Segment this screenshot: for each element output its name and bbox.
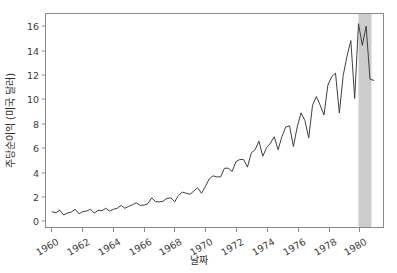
y-tick-label-10: 10 — [27, 94, 39, 105]
x-tick-mark-1978 — [329, 228, 330, 232]
x-tick-mark-1974 — [267, 228, 268, 232]
recession-band — [358, 14, 371, 227]
x-tick-mark-1962 — [82, 228, 83, 232]
data-line-group — [52, 24, 374, 215]
x-tick-mark-1964 — [113, 228, 114, 232]
y-tick-label-16: 16 — [27, 21, 39, 32]
y-tick-label-8: 8 — [33, 118, 39, 129]
y-axis-label: 주당순이익 (미국 달러) — [3, 73, 18, 168]
x-tick-mark-1976 — [298, 228, 299, 232]
x-tick-mark-1968 — [174, 228, 175, 232]
y-tick-label-4: 4 — [33, 167, 39, 178]
plot-area — [45, 13, 384, 228]
y-tick-label-2: 2 — [33, 191, 39, 202]
data-series-line-0 — [52, 24, 374, 215]
x-tick-mark-1966 — [144, 228, 145, 232]
chart-figure: 주당순이익 (미국 달러) 0246810121416 196019621964… — [0, 0, 397, 273]
plot-svg — [46, 14, 383, 227]
y-tick-label-12: 12 — [27, 70, 39, 81]
y-axis-label-container: 주당순이익 (미국 달러) — [2, 0, 18, 241]
y-tick-label-0: 0 — [33, 216, 39, 227]
y-tick-label-14: 14 — [27, 45, 39, 56]
shaded-span-group — [358, 14, 371, 227]
x-axis-label: 날짜 — [0, 252, 397, 267]
x-tick-mark-1970 — [205, 228, 206, 232]
y-tick-label-6: 6 — [33, 143, 39, 154]
x-tick-mark-1980 — [359, 228, 360, 232]
x-tick-mark-1960 — [51, 228, 52, 232]
x-tick-mark-1972 — [236, 228, 237, 232]
